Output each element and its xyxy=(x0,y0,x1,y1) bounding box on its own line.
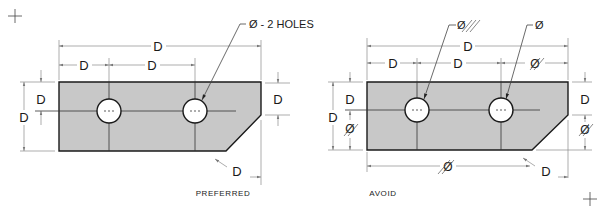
dim-avoid-hole1-to-hole2: D xyxy=(453,56,462,71)
dim-overall-height: D xyxy=(19,110,28,125)
dim-avoid-overall-width: D xyxy=(463,39,472,54)
dim-avoid-overall-height: D xyxy=(328,110,337,125)
caption-preferred: PREFERRED xyxy=(196,189,251,198)
note-holes: Ø - 2 HOLES xyxy=(249,18,314,30)
dim-right-height: D xyxy=(273,92,282,107)
dim-top-to-centerline: D xyxy=(36,92,45,107)
dim-left-to-hole1: D xyxy=(79,58,88,73)
note-avoid-right: Ø xyxy=(535,19,544,31)
plate-preferred xyxy=(59,82,261,151)
dim-avoid-left-to-hole1: D xyxy=(388,56,397,71)
dim-chamfer: D xyxy=(232,164,241,179)
dim-hole1-to-hole2: D xyxy=(147,58,156,73)
dim-overall-width: D xyxy=(153,39,162,54)
registration-mark-bottom-right xyxy=(583,192,597,206)
plate-avoid xyxy=(367,82,568,150)
dimensioning-figure: D D D D D D Ø - 2 HOLES xyxy=(0,0,606,211)
dim-avoid-chamfer: D xyxy=(541,164,550,179)
panel-avoid: D D D Ø D Ø D D xyxy=(328,19,593,198)
panel-preferred: D D D D D D Ø - 2 HOLES xyxy=(19,18,313,198)
caption-avoid: AVOID xyxy=(369,189,396,198)
registration-mark-top-left xyxy=(8,9,22,23)
dim-avoid-top-to-centerline: D xyxy=(345,92,354,107)
dim-avoid-right-height: D xyxy=(580,92,589,107)
